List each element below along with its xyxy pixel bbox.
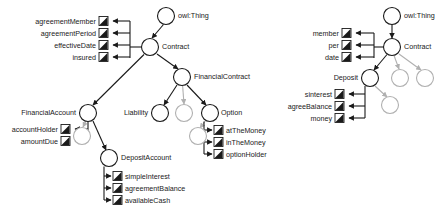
class-node-r-contract[interactable] (384, 39, 401, 56)
property-icon-per[interactable] (342, 41, 351, 50)
left-panel-contract-property-lines (113, 21, 142, 58)
class-node-financialcontract[interactable] (174, 69, 191, 86)
property-label-optionholder: optionHolder (226, 150, 267, 159)
class-node-liability[interactable] (152, 105, 169, 122)
property-label-date: date (292, 53, 339, 62)
edge-option-unnamed (200, 120, 206, 128)
property-icon-agreementbalance[interactable] (113, 184, 122, 193)
property-label-agreementmember: agreementMember (8, 17, 96, 26)
property-label-agreementperiod: agreementPeriod (8, 29, 96, 38)
right-panel-deposit-property-lines (349, 86, 365, 118)
property-label-atthemoney: atTheMoney (226, 126, 266, 135)
class-node-owlthing[interactable] (158, 8, 175, 25)
class-node-unnamed-option-child[interactable] (190, 128, 207, 145)
property-icon-sinterest[interactable] (335, 90, 344, 99)
class-label-contract: Contract (162, 42, 189, 51)
property-icon-effectivedate[interactable] (99, 41, 108, 50)
edge-financialcontract-option (187, 85, 206, 105)
class-label-r-deposit: Deposit (312, 73, 358, 82)
property-label-amountdue: amountDue (0, 137, 58, 146)
class-node-r-unnamed-3[interactable] (382, 97, 399, 114)
class-label-owlthing: owl:Thing (178, 11, 209, 20)
edge-r-contract-unnamed1 (394, 56, 399, 70)
property-label-agreebalance: agreeBalance (272, 102, 332, 111)
left-panel-depositaccount-property-lines (104, 167, 111, 201)
class-label-liability: Liability (104, 108, 148, 117)
edge-r-contract-unnamed2 (399, 54, 421, 70)
edge-financialcontract-unnamed (183, 86, 184, 105)
property-icon-money[interactable] (335, 114, 344, 123)
property-icon-agreebalance[interactable] (335, 102, 344, 111)
class-label-r-owlthing: owl:Thing (404, 11, 435, 20)
edge-financialaccount-unnamed (83, 121, 86, 127)
property-icon-inthemoney[interactable] (214, 138, 223, 147)
class-node-unnamed-financialaccount-child[interactable] (74, 128, 91, 145)
class-node-contract[interactable] (142, 39, 159, 56)
property-label-sinterest: sinterest (272, 90, 332, 99)
class-node-unnamed-mid[interactable] (176, 105, 193, 122)
property-icon-date[interactable] (342, 53, 351, 62)
property-icon-accountholder[interactable] (61, 125, 70, 134)
class-node-r-unnamed-2[interactable] (417, 70, 434, 87)
edge-contract-financialaccount (93, 55, 144, 106)
edge-r-deposit-unnamed3 (375, 86, 387, 97)
property-label-availablecash: availableCash (125, 196, 170, 205)
edge-contract-financialcontract (157, 54, 178, 69)
class-node-r-owlthing[interactable] (384, 8, 401, 25)
class-node-option[interactable] (202, 105, 219, 122)
class-label-depositaccount: DepositAccount (121, 153, 171, 162)
property-icon-insured[interactable] (99, 53, 108, 62)
class-node-r-deposit[interactable] (362, 70, 379, 87)
class-node-depositaccount[interactable] (101, 150, 118, 167)
property-icon-simpleinterest[interactable] (113, 172, 122, 181)
edge-owlthing-contract (152, 25, 164, 39)
property-label-member: member (292, 29, 339, 38)
class-label-financialaccount: FinancialAccount (0, 108, 76, 117)
class-node-r-unnamed-1[interactable] (392, 70, 409, 87)
edge-financialaccount-depositaccount (93, 121, 106, 150)
class-label-option: Option (221, 108, 242, 117)
property-label-money: money (272, 114, 332, 123)
edge-r-contract-deposit (374, 55, 387, 71)
property-label-per: per (292, 41, 339, 50)
property-label-insured: insured (8, 53, 96, 62)
property-label-accountholder: accountHolder (0, 125, 58, 134)
property-icon-amountdue[interactable] (61, 137, 70, 146)
property-label-inthemoney: inTheMoney (226, 138, 266, 147)
class-node-financialaccount[interactable] (80, 105, 97, 122)
property-label-agreementbalance: agreementBalance (125, 184, 185, 193)
edge-financialcontract-liability (164, 85, 177, 105)
property-icon-atthemoney[interactable] (214, 126, 223, 135)
property-label-simpleinterest: simpleInterest (125, 172, 170, 181)
class-label-r-contract: Contract (404, 42, 431, 51)
right-panel-contract-property-lines (356, 33, 384, 58)
property-icon-agreementmember[interactable] (99, 17, 108, 26)
property-icon-availablecash[interactable] (113, 196, 122, 205)
class-label-financialcontract: FinancialContract (194, 72, 250, 81)
diagram-canvas: owl:Thing Contract FinancialContract Fin… (0, 0, 448, 221)
property-icon-agreementperiod[interactable] (99, 29, 108, 38)
property-icon-optionholder[interactable] (214, 150, 223, 159)
property-label-effectivedate: effectiveDate (8, 41, 96, 50)
property-icon-member[interactable] (342, 29, 351, 38)
